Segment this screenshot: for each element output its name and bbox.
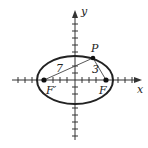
point-p-label: P bbox=[90, 42, 99, 55]
segment-label-7: 7 bbox=[56, 62, 63, 75]
point-f-prime bbox=[41, 77, 46, 82]
point-f-prime-label: F′ bbox=[45, 84, 57, 97]
y-axis-arrow-icon bbox=[72, 10, 78, 18]
y-axis bbox=[72, 10, 78, 140]
x-axis bbox=[12, 77, 142, 83]
y-axis-label: y bbox=[80, 5, 88, 18]
ellipse-diagram: y x P F F′ 7 3 bbox=[0, 0, 148, 148]
point-p bbox=[91, 56, 96, 61]
segment-label-3: 3 bbox=[92, 63, 99, 76]
point-f-label: F bbox=[98, 84, 107, 97]
x-axis-label: x bbox=[137, 83, 144, 96]
point-f bbox=[103, 77, 108, 82]
